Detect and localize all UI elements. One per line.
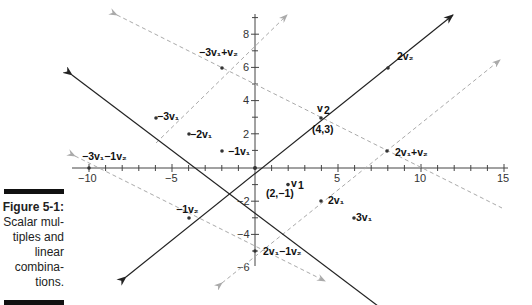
label-neg1v2: −1v₂ [176, 203, 199, 215]
point-v1 [286, 183, 290, 187]
label-3v1: 3v₁ [356, 211, 372, 223]
label-neg1v1: −1v₁ [228, 145, 250, 157]
x-tick-label: 10 [414, 172, 426, 184]
line-span-v1 [72, 75, 378, 305]
x-tick-label: −5 [165, 172, 178, 184]
label-v2-coords: (4,3) [312, 123, 334, 135]
label-v1-coords: (2,−1) [266, 187, 294, 199]
point-v2 [319, 116, 323, 120]
label-v2: v [317, 102, 323, 114]
label-neg2v1: −2v₁ [190, 128, 212, 140]
label-neg3v1-minus-v2: −3v₁−1v₂ [82, 150, 127, 162]
y-tick-label: 8 [243, 28, 249, 40]
point-2v1-plus-v2 [385, 149, 389, 153]
label-v1-sub: 1 [298, 179, 304, 191]
point-2v1-minus-v2 [253, 249, 257, 253]
point-neg3v1-plus-v2 [220, 66, 224, 70]
y-tick-label: 6 [243, 61, 249, 73]
y-tick-label: −6 [237, 261, 250, 273]
point-2v2 [386, 66, 390, 70]
dashed-line-lower-left [75, 156, 325, 281]
y-axis [251, 14, 259, 266]
dashed-line-upper-steep [156, 15, 287, 143]
point-neg1v1 [220, 149, 224, 153]
origin-point [253, 166, 257, 170]
label-neg3v1-plus-v2: −3v₁+v₂ [199, 46, 238, 58]
x-axis [72, 164, 508, 172]
x-tick-label: 15 [497, 172, 509, 184]
point-neg3v1-minus-v2 [87, 166, 91, 170]
label-2v1: 2v₁ [328, 194, 344, 206]
y-tick-label: 4 [243, 94, 249, 106]
label-2v2: 2v₂ [397, 50, 414, 62]
label-2v1-plus-v2: 2v₁+v₂ [395, 146, 428, 158]
y-tick-label: 2 [243, 128, 249, 140]
point-neg1v2 [187, 216, 191, 220]
x-tick-label: −10 [78, 172, 97, 184]
label-v2-sub: 2 [324, 104, 330, 116]
label-neg3v1: −3v₁ [157, 110, 179, 122]
x-tick-label: 5 [334, 172, 340, 184]
label-2v1-minus-v2: 2v₁−1v₂ [263, 245, 302, 257]
point-2v1 [319, 199, 323, 203]
vector-diagram: −10 −5 5 10 15 8 6 4 2 −2 −4 −6 [0, 0, 532, 305]
